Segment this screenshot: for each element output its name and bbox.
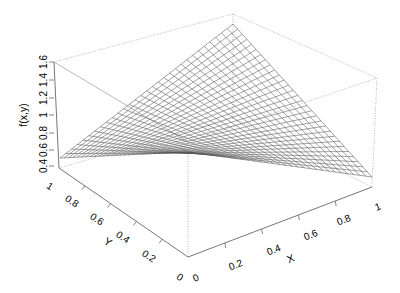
x-tick — [298, 215, 299, 220]
axes — [49, 62, 372, 257]
y-tick-label: 0.4 — [114, 229, 132, 246]
x-tick-label: 0.4 — [265, 242, 282, 258]
z-tick-label: 1.2 — [38, 91, 49, 105]
z-tick-label: 1.4 — [38, 73, 49, 87]
y-tick-label: 0 — [175, 271, 186, 283]
z-axis-tick-labels: 0.4 0.6 0.8 1 1.2 1.4 1.6 — [38, 55, 49, 173]
x-axis-tick-labels: 0 0.2 0.4 0.6 0.8 1 — [191, 200, 383, 283]
x-tick — [335, 201, 336, 206]
z-tick-label: 1 — [38, 112, 49, 118]
z-tick-label: 0.6 — [38, 143, 49, 157]
y-tick-label: 0.8 — [63, 193, 81, 210]
mesh-line — [124, 101, 303, 156]
z-axis-line — [54, 62, 59, 168]
x-tick — [262, 229, 263, 234]
y-tick — [82, 186, 85, 190]
y-tick — [133, 221, 136, 225]
y-tick — [108, 204, 111, 208]
box-edge — [372, 78, 377, 187]
x-tick-label: 1 — [373, 200, 383, 212]
x-tick-label: 0.6 — [302, 227, 319, 243]
x-tick-label: 0 — [191, 271, 201, 283]
x-axis-title: X — [285, 251, 296, 265]
y-tick — [159, 239, 162, 243]
z-tick-label: 0.4 — [38, 159, 49, 173]
x-tick-label: 0.2 — [227, 257, 244, 273]
y-axis-title: Y — [102, 235, 114, 249]
mesh-line — [69, 34, 243, 157]
y-tick-label: 1 — [45, 180, 56, 192]
box-edge — [233, 14, 377, 78]
surface-plot: f(x,y) X Y 0.4 0.6 0.8 1 1.2 1.4 1.6 0 0… — [0, 0, 400, 293]
z-tick-label: 1.6 — [38, 55, 49, 69]
z-tick-label: 0.8 — [38, 126, 49, 140]
x-tick — [225, 243, 226, 248]
y-tick-label: 0.2 — [140, 248, 158, 265]
y-tick-label: 0.6 — [88, 211, 106, 228]
surface-wireframe — [60, 24, 372, 177]
z-axis-title: f(x,y) — [17, 103, 29, 126]
box-edge — [54, 14, 233, 62]
y-axis-tick-labels: 0 0.2 0.4 0.6 0.8 1 — [45, 180, 186, 283]
x-tick-label: 0.8 — [335, 212, 352, 228]
